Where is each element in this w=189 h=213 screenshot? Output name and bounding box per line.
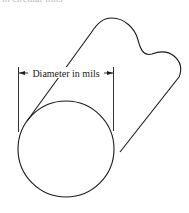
wire-diagram: Diameter in mils [0, 0, 189, 213]
wire-outline [27, 18, 181, 152]
dimension-label: Diameter in mils [32, 68, 99, 79]
wire-cross-section-circle [18, 101, 114, 197]
left-arrow-icon [19, 71, 25, 75]
right-arrow-icon [107, 71, 113, 75]
